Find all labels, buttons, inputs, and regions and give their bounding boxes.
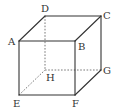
vertex-label-D: D	[41, 3, 49, 14]
edge-AD	[19, 16, 45, 41]
vertex-label-A: A	[7, 36, 16, 47]
vertex-label-E: E	[13, 98, 20, 109]
vertex-label-H: H	[46, 72, 55, 83]
vertex-label-B: B	[78, 41, 85, 52]
edge-BC	[75, 16, 101, 41]
vertex-label-C: C	[103, 10, 111, 21]
edge-EH	[19, 70, 45, 95]
vertex-label-F: F	[72, 98, 79, 109]
cube-diagram: A B C D E F G H	[0, 0, 118, 112]
vertex-label-G: G	[103, 65, 111, 76]
edge-FG	[75, 70, 101, 95]
